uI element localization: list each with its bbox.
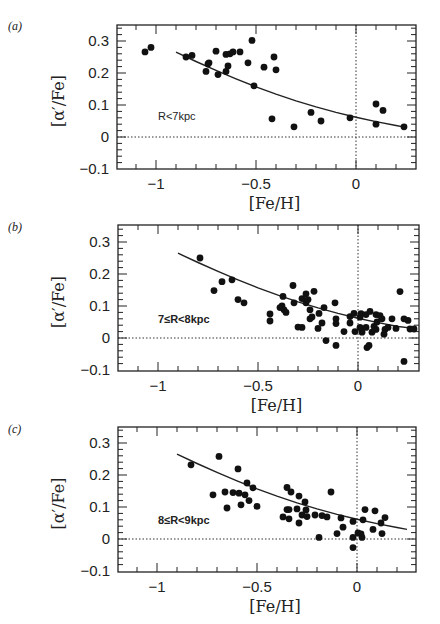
data-point [311, 288, 318, 295]
data-point [291, 123, 298, 130]
data-point [350, 544, 357, 551]
data-point [370, 526, 377, 533]
y-tick-label: −0.1 [80, 562, 110, 579]
data-point [305, 296, 312, 303]
data-point [359, 534, 366, 541]
x-axis-label: [Fe/H] [249, 194, 301, 213]
data-point [378, 520, 385, 527]
data-point [241, 299, 248, 306]
data-point [362, 506, 369, 513]
data-point [379, 530, 386, 537]
data-point [312, 512, 319, 519]
data-point [211, 287, 218, 294]
data-point [380, 107, 387, 114]
x-tick-label: 0 [352, 175, 360, 192]
y-tick-label: −0.1 [80, 361, 110, 378]
data-point [323, 337, 330, 344]
data-point [315, 325, 322, 332]
data-point [296, 493, 303, 500]
x-tick-label: −0.5 [243, 377, 273, 394]
data-point [224, 505, 231, 512]
data-point [273, 66, 280, 73]
data-point [230, 489, 237, 496]
x-tick-label: −0.5 [241, 175, 271, 192]
data-point [254, 503, 261, 510]
plot-frame [117, 25, 416, 169]
radius-bin-annotation: R<7kpc [158, 110, 196, 122]
data-point [242, 491, 249, 498]
y-axis-label: [α′/Fe] [49, 477, 68, 529]
x-tick-label: −0.5 [242, 578, 272, 595]
data-point [308, 109, 315, 116]
data-point [316, 534, 323, 541]
data-point [304, 513, 311, 520]
data-point [340, 524, 347, 531]
data-point [401, 123, 408, 130]
data-point [324, 514, 331, 521]
data-point [333, 320, 340, 327]
data-point [251, 82, 258, 89]
data-point [411, 326, 418, 333]
data-point [245, 59, 252, 66]
data-point [271, 54, 278, 61]
y-tick-label: 0.1 [88, 96, 109, 113]
data-point [267, 311, 274, 318]
y-tick-label: 0.3 [89, 434, 110, 451]
plot-frame [118, 225, 419, 371]
data-point [189, 52, 196, 59]
data-point [197, 255, 204, 262]
data-point [347, 114, 354, 121]
panel-label: (a) [8, 19, 22, 33]
y-axis-label: [α′/Fe] [49, 276, 68, 328]
y-tick-label: 0.2 [88, 64, 109, 81]
data-point [341, 328, 348, 335]
data-point [267, 318, 274, 325]
data-point [373, 326, 380, 333]
y-tick-label: 0 [102, 329, 110, 346]
panel-b: (b)−0.100.10.20.3−1−0.50[Fe/H][α′/Fe]7≤R… [8, 220, 419, 415]
data-point [307, 306, 314, 313]
x-tick-label: −1 [149, 377, 166, 394]
data-point [244, 480, 251, 487]
data-point [225, 63, 232, 70]
data-point [142, 49, 149, 56]
data-point [303, 290, 310, 297]
data-point [213, 48, 220, 55]
axis-ticks [118, 427, 416, 572]
data-point [360, 516, 367, 523]
x-tick-label: 0 [353, 578, 361, 595]
data-point [397, 288, 404, 295]
x-tick-label: −1 [148, 578, 165, 595]
data-point [334, 530, 341, 537]
data-point [236, 490, 243, 497]
data-point [229, 276, 236, 283]
data-point [203, 68, 210, 75]
data-point [299, 324, 306, 331]
data-point [230, 49, 237, 56]
x-axis-label: [Fe/H] [251, 396, 303, 415]
axis-ticks [118, 225, 419, 371]
data-point [219, 278, 226, 285]
data-point [269, 115, 276, 122]
data-point [280, 514, 287, 521]
data-point [372, 507, 379, 514]
panel-a: (a)−0.100.10.20.3−1−0.50[Fe/H][α′/Fe]R<7… [8, 19, 416, 213]
radius-bin-annotation: 8≤R<9kpc [158, 514, 210, 526]
data-point [215, 71, 222, 78]
data-point [328, 489, 335, 496]
data-point [238, 501, 245, 508]
radius-bin-annotation: 7≤R<8kpc [158, 313, 210, 325]
data-point [210, 491, 217, 498]
y-tick-label: 0.2 [89, 466, 110, 483]
data-point [405, 317, 412, 324]
data-point [382, 514, 389, 521]
panel-label: (b) [8, 220, 22, 234]
alpha-fe-vs-fe-h-figure: (a)−0.100.10.20.3−1−0.50[Fe/H][α′/Fe]R<7… [0, 0, 440, 624]
data-point [280, 293, 287, 300]
data-point [296, 520, 303, 527]
data-point [321, 304, 328, 311]
data-point [333, 342, 340, 349]
data-point [385, 324, 392, 331]
y-tick-label: 0 [102, 530, 110, 547]
data-point [216, 453, 223, 460]
